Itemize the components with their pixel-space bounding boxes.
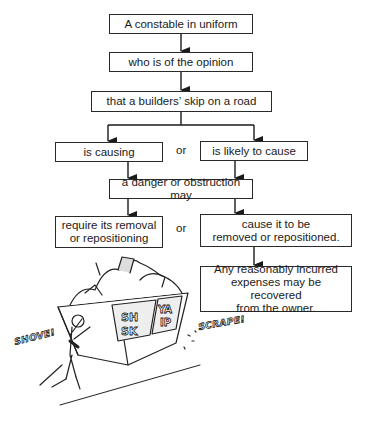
branch-is-causing: is causing (55, 142, 163, 162)
step-text-line2: removed or repositioned. (212, 231, 339, 244)
skip-label-left: SH (121, 311, 138, 324)
step-text: is causing (83, 146, 134, 159)
skip-label-right-2: IP (160, 317, 171, 328)
step-text-line1: require its removal (62, 219, 157, 232)
branch-cause-removal: cause it to be removed or repositioned. (200, 214, 352, 247)
step-constable-in-uniform: A constable in uniform (109, 14, 253, 34)
step-text: a danger or obstruction may (113, 176, 249, 202)
step-text: who is of the opinion (129, 56, 234, 69)
or-connector-1: or (176, 144, 186, 156)
step-skip-on-road: that a builders’ skip on a road (91, 91, 272, 112)
step-text: A constable in uniform (124, 18, 237, 31)
or-connector-2: or (176, 222, 186, 234)
branch-require-removal: require its removal or repositioning (55, 216, 163, 248)
step-of-the-opinion: who is of the opinion (109, 52, 253, 72)
step-text: is likely to cause (212, 145, 296, 158)
step-text-line1: cause it to be (242, 218, 310, 231)
skip-label-right: YA (157, 304, 172, 315)
step-text: that a builders’ skip on a road (107, 95, 257, 108)
skip-label-left-2: SK (121, 325, 138, 338)
step-text-line2: or repositioning (70, 232, 149, 245)
step-danger-or-obstruction: a danger or obstruction may (109, 179, 253, 199)
branch-likely-to-cause: is likely to cause (200, 141, 308, 161)
